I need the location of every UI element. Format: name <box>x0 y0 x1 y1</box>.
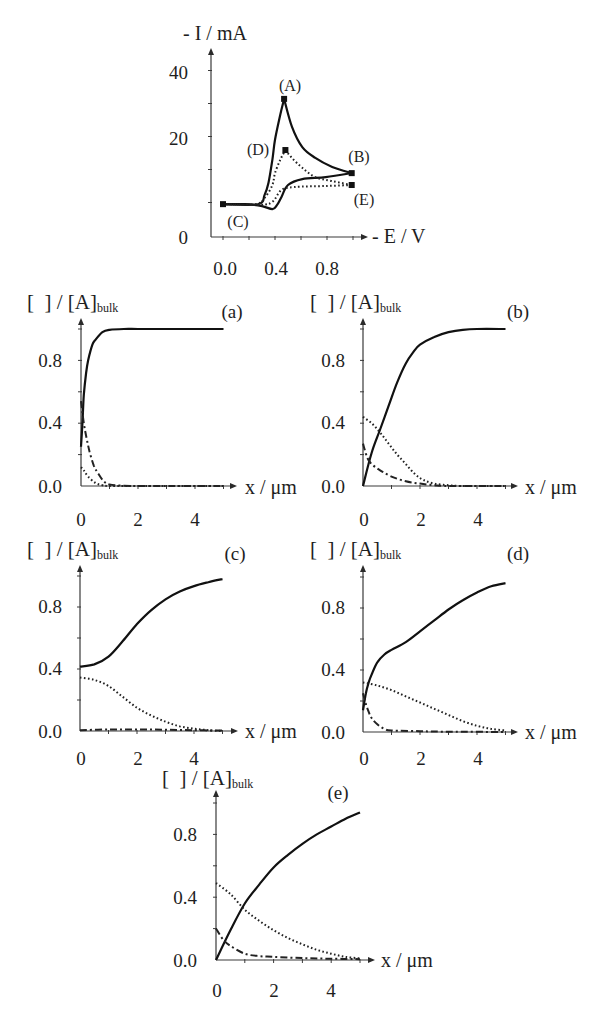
cv-curves <box>220 96 355 209</box>
panel-b-letter: (b) <box>507 301 529 323</box>
cv-ytick-label: 0 <box>179 227 189 248</box>
ytick-label: 0.0 <box>38 721 62 742</box>
xtick-label: 4 <box>473 748 483 769</box>
data-point-marker-icon <box>349 182 355 188</box>
dash-dot-curve <box>81 401 224 486</box>
panel-e-y-axis-label: [ ] / [A]bulk <box>162 766 253 791</box>
ytick-label: 0.0 <box>321 476 345 497</box>
dotted-curve <box>223 150 285 205</box>
panel-d-x-axis-label: x / μm <box>525 721 577 744</box>
dash-dot-curve <box>363 444 506 486</box>
xtick-label: 2 <box>416 509 426 530</box>
dotted-curve <box>223 185 352 205</box>
x-axis-arrow-icon <box>361 234 368 240</box>
dash-dot-curve <box>80 729 223 730</box>
xtick-label: 4 <box>190 509 200 530</box>
y-axis-arrow-icon <box>213 790 219 797</box>
panel-c-y-axis-label: [ ] / [A]bulk <box>27 537 118 562</box>
xtick-label: 0 <box>212 980 222 1001</box>
panel-b-curves <box>363 329 506 486</box>
cv-chart: - I / mA 40 20 0 0.0 0.4 0.8 - E / V (A)… <box>169 22 426 279</box>
xtick-label: 4 <box>326 980 336 1001</box>
dotted-curve <box>80 678 223 732</box>
dotted-curve <box>285 150 351 185</box>
cv-ytick-label: 20 <box>169 128 188 149</box>
ytick-label: 0.4 <box>321 412 345 433</box>
profile-chart-e: [ ] / [A]bulk (e) 0.8 0.4 0.0 0 2 4 x / … <box>162 766 433 1001</box>
xtick-label: 0 <box>76 748 86 769</box>
profile-chart-d: [ ] / [A]bulk (d) 0.8 0.4 0.0 0 2 4 x / … <box>310 537 577 769</box>
xtick-label: 2 <box>133 748 143 769</box>
panel-c-letter: (c) <box>224 543 245 565</box>
data-point-marker-icon <box>220 201 226 207</box>
profile-chart-a: [ ] / [A]bulk (a) 0.8 0.4 0.0 0 2 4 x / … <box>27 290 297 530</box>
ytick-label: 0.8 <box>38 596 62 617</box>
cv-xtick-label: 0.4 <box>264 258 288 279</box>
panel-d-curves <box>363 583 506 732</box>
panel-b-x-axis-label: x / μm <box>525 476 577 499</box>
panel-a-curves <box>81 329 224 486</box>
solid-curve <box>80 579 223 667</box>
xtick-label: 0 <box>76 509 86 530</box>
panel-c-axes <box>77 565 238 734</box>
panel-d-axes <box>360 565 518 735</box>
point-label-e: (E) <box>354 191 374 209</box>
x-axis-arrow-icon <box>231 728 238 734</box>
panel-a-x-axis-label: x / μm <box>245 476 297 499</box>
ytick-label: 0.4 <box>321 659 345 680</box>
ytick-label: 0.8 <box>38 350 62 371</box>
y-axis-arrow-icon <box>360 318 366 325</box>
dotted-curve <box>216 883 360 958</box>
dash-dot-curve <box>363 693 506 732</box>
xtick-label: 0 <box>359 509 369 530</box>
panel-e-letter: (e) <box>327 782 348 804</box>
data-point-marker-icon <box>281 96 287 102</box>
ytick-label: 0.8 <box>321 597 345 618</box>
ytick-label: 0.0 <box>38 476 62 497</box>
cv-ytick-label: 40 <box>169 62 188 83</box>
xtick-label: 2 <box>416 748 426 769</box>
ytick-label: 0.0 <box>173 950 197 971</box>
panel-c-x-axis-label: x / μm <box>245 720 297 743</box>
ytick-label: 0.0 <box>321 722 345 743</box>
point-label-c: (C) <box>227 213 248 231</box>
ytick-label: 0.4 <box>38 412 62 433</box>
y-axis-arrow-icon <box>360 565 366 572</box>
xtick-label: 2 <box>269 980 279 1001</box>
y-axis-arrow-icon <box>78 318 84 325</box>
dotted-curve <box>363 682 506 730</box>
point-label-d: (D) <box>247 141 269 159</box>
profile-chart-b: [ ] / [A]bulk (b) 0.8 0.4 0.0 0 2 4 x / … <box>310 290 577 530</box>
panel-e-x-axis-label: x / μm <box>381 949 433 972</box>
cv-x-axis-label: - E / V <box>372 225 426 247</box>
point-label-b: (B) <box>348 148 369 166</box>
panel-a-letter: (a) <box>221 301 242 323</box>
figure: - I / mA 40 20 0 0.0 0.4 0.8 - E / V (A)… <box>0 0 610 1020</box>
cv-xtick-label: 0.0 <box>213 258 237 279</box>
ytick-label: 0.4 <box>38 658 62 679</box>
point-label-a: (A) <box>279 77 301 95</box>
panel-a-axes <box>78 318 237 489</box>
solid-curve <box>363 583 506 710</box>
cv-y-axis-label: - I / mA <box>183 22 247 44</box>
dotted-curve <box>363 417 506 486</box>
panel-d-letter: (d) <box>507 543 529 565</box>
xtick-label: 4 <box>473 509 483 530</box>
panel-e-curves <box>216 812 360 960</box>
profile-chart-c: [ ] / [A]bulk (c) 0.8 0.4 0.0 0 2 4 x / … <box>27 537 297 769</box>
y-axis-arrow-icon <box>77 565 83 572</box>
dotted-curve <box>81 467 224 486</box>
panel-c-curves <box>80 579 223 731</box>
xtick-label: 0 <box>359 748 369 769</box>
solid-curve <box>284 99 352 173</box>
x-axis-arrow-icon <box>511 729 518 735</box>
solid-curve <box>216 812 360 960</box>
x-axis-arrow-icon <box>368 957 375 963</box>
y-axis-arrow-icon <box>208 48 214 55</box>
panel-b-y-axis-label: [ ] / [A]bulk <box>310 290 401 315</box>
panel-d-y-axis-label: [ ] / [A]bulk <box>310 537 401 562</box>
panel-b-axes <box>360 318 518 489</box>
ytick-label: 0.8 <box>321 350 345 371</box>
x-axis-arrow-icon <box>230 483 237 489</box>
xtick-label: 2 <box>133 509 143 530</box>
